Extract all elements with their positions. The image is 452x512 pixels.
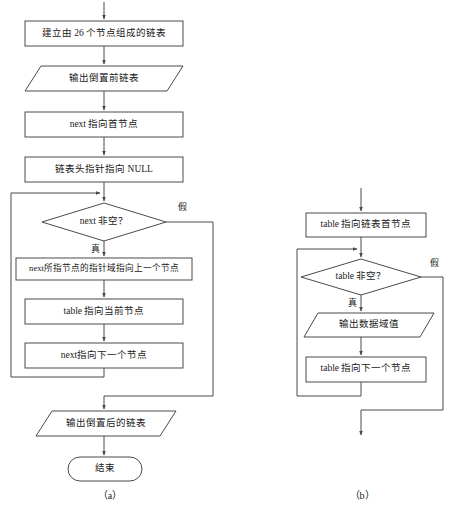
node-a-table-current-label: table 指向当前节点	[64, 305, 145, 316]
connector-b-false	[361, 277, 443, 435]
flowchart-canvas: 建立由 26 个节点组成的链表 输出倒置前链表 next 指向首节点 链表头指针…	[0, 0, 452, 512]
node-b-table-advance-label: table 指向下一个节点	[321, 362, 412, 373]
flowchart-page: 建立由 26 个节点组成的链表 输出倒置前链表 next 指向首节点 链表头指针…	[0, 0, 452, 512]
node-a-head-null-label: 链表头指针指向 NULL	[55, 163, 153, 174]
branch-label-a-false: 假	[178, 202, 187, 212]
node-b-table-notnull-label: table 非空？	[336, 270, 387, 281]
node-a-create-list-label: 建立由 26 个节点组成的链表	[42, 27, 166, 38]
node-a-print-after-label: 输出倒置后的链表	[66, 417, 146, 428]
panel-a: 建立由 26 个节点组成的链表 输出倒置前链表 next 指向首节点 链表头指针…	[11, 2, 213, 501]
branch-label-b-true: 真	[348, 297, 357, 308]
node-b-table-head-label: table 指向链表首节点	[321, 218, 412, 229]
branch-label-a-true: 真	[91, 243, 100, 254]
node-b-print-data-label: 输出数据域值	[339, 318, 399, 329]
node-a-print-before-label: 输出倒置前链表	[69, 72, 139, 83]
caption-panel-b: （b）	[350, 490, 375, 501]
node-a-next-advance-label: next指向下一个节点	[61, 349, 147, 360]
node-a-next-head-label: next 指向首节点	[70, 118, 139, 129]
node-a-end-label: 结束	[95, 462, 115, 473]
branch-label-b-false: 假	[430, 258, 439, 268]
node-a-next-notnull-label: next 非空？	[80, 215, 129, 226]
node-a-reverse-link-label: next所指节点的指针域指向上一个节点	[29, 262, 179, 273]
caption-panel-a: （a）	[98, 490, 122, 501]
panel-b: table 指向链表首节点 table 非空？ 假 真 输出数据域值 table…	[297, 188, 443, 501]
